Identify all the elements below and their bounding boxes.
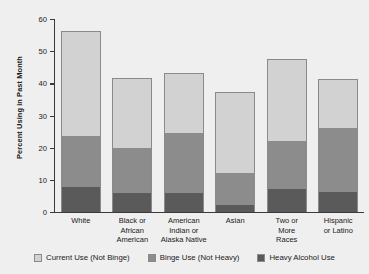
x-axis-label-line: White xyxy=(55,216,107,226)
x-axis-line xyxy=(54,212,364,213)
legend-swatch-current xyxy=(34,254,42,262)
bar-segment-heavy xyxy=(216,205,254,212)
bar-group xyxy=(55,19,364,212)
x-axis-label-line: American xyxy=(107,235,159,245)
legend-swatch-binge xyxy=(148,254,156,262)
x-axis-label: Black orAfricanAmerican xyxy=(107,216,159,245)
x-axis-label-line: Two or xyxy=(261,216,313,226)
stacked-bar[interactable] xyxy=(112,78,152,212)
x-axis-label-line: Hispanic xyxy=(313,216,365,226)
bar-segment-binge xyxy=(113,148,151,194)
x-axis-labels: WhiteBlack orAfricanAmericanAmericanIndi… xyxy=(55,216,364,245)
bar-segment-binge xyxy=(165,133,203,193)
x-axis-label: Two orMoreRaces xyxy=(261,216,313,245)
legend-item-heavy[interactable]: Heavy Alcohol Use xyxy=(257,253,334,262)
x-axis-label-line: Indian or xyxy=(158,226,210,236)
stacked-bar[interactable] xyxy=(267,59,307,212)
y-tick-label: 40 xyxy=(39,79,47,88)
y-tick-label: 30 xyxy=(39,111,47,120)
bar-slot xyxy=(313,19,365,212)
legend-label: Heavy Alcohol Use xyxy=(269,253,334,262)
x-axis-label-line: Alaska Native xyxy=(158,235,210,245)
x-axis-label-line: American xyxy=(158,216,210,226)
bar-segment-current xyxy=(268,60,306,141)
bar-segment-binge xyxy=(62,136,100,188)
bar-slot xyxy=(107,19,159,212)
x-axis-label: AmericanIndian orAlaska Native xyxy=(158,216,210,245)
bar-segment-current xyxy=(216,93,254,173)
y-tick-label: 0 xyxy=(43,208,47,217)
bar-slot xyxy=(210,19,262,212)
bar-segment-binge xyxy=(216,173,254,205)
bar-segment-binge xyxy=(319,128,357,192)
x-axis-label: White xyxy=(55,216,107,245)
bar-slot xyxy=(55,19,107,212)
x-axis-label-line: African xyxy=(107,226,159,236)
legend-swatch-heavy xyxy=(257,254,265,262)
legend-label: Binge Use (Not Heavy) xyxy=(160,253,240,262)
legend-item-current[interactable]: Current Use (Not Binge) xyxy=(34,253,130,262)
x-axis-label-line: or Latino xyxy=(313,226,365,236)
bar-segment-current xyxy=(62,32,100,136)
bar-segment-heavy xyxy=(319,192,357,212)
legend-label: Current Use (Not Binge) xyxy=(46,253,130,262)
bar-slot xyxy=(158,19,210,212)
stacked-bar-chart: Percent Using in Past Month 010203040506… xyxy=(0,0,369,274)
chart-legend: Current Use (Not Binge)Binge Use (Not He… xyxy=(0,253,369,262)
y-axis-title: Percent Using in Past Month xyxy=(10,0,28,214)
bar-segment-heavy xyxy=(62,187,100,212)
y-tick-label: 60 xyxy=(39,15,47,24)
x-axis-label-line: Black or xyxy=(107,216,159,226)
bar-segment-binge xyxy=(268,141,306,189)
x-axis-label-line: Asian xyxy=(210,216,262,226)
x-axis-label: Hispanicor Latino xyxy=(313,216,365,245)
x-axis-label-line: Races xyxy=(261,235,313,245)
bar-segment-current xyxy=(113,79,151,148)
y-tick-label: 10 xyxy=(39,175,47,184)
bar-segment-heavy xyxy=(165,193,203,212)
x-axis-label: Asian xyxy=(210,216,262,245)
y-tick-label: 50 xyxy=(39,47,47,56)
stacked-bar[interactable] xyxy=(61,31,101,212)
y-tick-label: 20 xyxy=(39,143,47,152)
legend-item-binge[interactable]: Binge Use (Not Heavy) xyxy=(148,253,240,262)
plot-area: 0102030405060 xyxy=(55,19,364,212)
y-tick-mark xyxy=(50,212,55,213)
bar-segment-current xyxy=(165,74,203,133)
x-axis-label-line: More xyxy=(261,226,313,236)
stacked-bar[interactable] xyxy=(164,73,204,212)
bar-segment-heavy xyxy=(113,193,151,212)
stacked-bar[interactable] xyxy=(215,92,255,212)
bar-segment-current xyxy=(319,80,357,128)
bar-segment-heavy xyxy=(268,189,306,212)
bar-slot xyxy=(261,19,313,212)
stacked-bar[interactable] xyxy=(318,79,358,212)
y-axis-title-text: Percent Using in Past Month xyxy=(15,56,24,159)
